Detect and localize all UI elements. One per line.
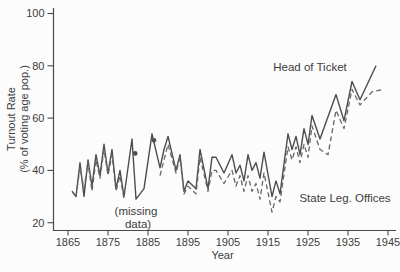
x-tick-label: 1915 — [256, 236, 280, 248]
x-axis-title: Year — [211, 249, 234, 261]
x-tick-label: 1925 — [296, 236, 320, 248]
x-tick-label: 1875 — [96, 236, 120, 248]
missing-data-line1: (missing — [115, 205, 158, 217]
x-tick-label: 1945 — [376, 236, 400, 248]
y-axis-title-line1: Turnout Rate — [5, 87, 17, 151]
missing-data-line2: data) — [125, 218, 151, 230]
y-tick-label: 60 — [32, 112, 44, 124]
head-of-ticket-label: Head of Ticket — [273, 61, 347, 73]
y-axis-title-line2: (% of voting age pop.) — [18, 65, 30, 173]
head-of-ticket-line — [72, 66, 376, 199]
turnout-rate-figure: 2040608010018651875188518951905191519251… — [0, 0, 400, 272]
isolated-data-point — [133, 151, 138, 156]
x-tick-label: 1885 — [136, 236, 160, 248]
x-tick-label: 1865 — [56, 236, 80, 248]
y-tick-label: 40 — [32, 164, 44, 176]
y-tick-label: 100 — [26, 7, 44, 19]
x-tick-label: 1905 — [216, 236, 240, 248]
state-leg-label: State Leg. Offices — [299, 192, 390, 204]
y-tick-label: 80 — [32, 60, 44, 72]
y-tick-label: 20 — [32, 217, 44, 229]
isolated-data-point — [152, 138, 157, 143]
turnout-chart-svg: 2040608010018651875188518951905191519251… — [0, 0, 400, 272]
x-tick-label: 1895 — [176, 236, 200, 248]
x-tick-label: 1935 — [336, 236, 360, 248]
